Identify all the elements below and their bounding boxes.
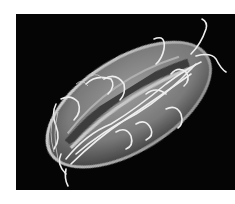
organism-illustration: [16, 14, 235, 190]
micrograph-photo: [16, 14, 235, 190]
